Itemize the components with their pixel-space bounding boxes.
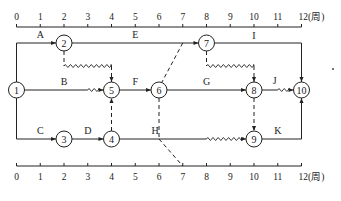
tick-label: 10 (249, 12, 259, 22)
tick-label: 10 (249, 172, 259, 182)
activity-H: H (120, 125, 247, 141)
node-label: 10 (297, 85, 307, 96)
tick-label: 2 (62, 172, 67, 182)
check-line (159, 43, 183, 166)
arrow-head (110, 77, 114, 82)
node-4: 4 (104, 131, 120, 147)
node-1: 1 (9, 82, 25, 98)
arrow-head (300, 98, 304, 103)
activity-label: H (151, 125, 158, 136)
nodes: 12345678910 (9, 35, 310, 147)
tick-label: 6 (157, 172, 162, 182)
tick-label: 9 (228, 12, 233, 22)
arrow-head (252, 77, 256, 82)
tick-label: 5 (133, 12, 138, 22)
activity-E: E (72, 29, 199, 45)
tick-label: 3 (85, 172, 90, 182)
arrow-head (110, 98, 114, 103)
top-time-axis: 0123456789101112(周) (14, 12, 324, 27)
arrow-head (289, 88, 294, 92)
check-line-segment (162, 43, 183, 82)
activity-label: D (84, 125, 91, 136)
activity-J: J (262, 75, 294, 92)
free-float-wave (207, 65, 255, 68)
activity-I: I (215, 30, 304, 82)
arrow-head (51, 41, 56, 45)
arrow-head (300, 77, 304, 82)
tick-label: 0 (14, 12, 19, 22)
node-label: 7 (204, 38, 209, 49)
tick-label: 5 (133, 172, 138, 182)
network-diagram: 0123456789101112(周) 0123456789101112(周) … (0, 0, 341, 201)
dummy-8-9 (252, 98, 256, 131)
arrow-head (194, 41, 199, 45)
arrow-head (99, 137, 104, 141)
activity-G: G (167, 76, 246, 92)
activity-label: J (273, 75, 277, 86)
node-label: 1 (14, 85, 19, 96)
activity-label: G (203, 76, 210, 87)
tick-label: 9 (228, 172, 233, 182)
activity-label: F (132, 76, 138, 87)
arrow-line (262, 98, 302, 139)
tick-label: 4 (109, 12, 114, 22)
tick-label: 4 (109, 172, 114, 182)
tick-label: 6 (157, 12, 162, 22)
tick-label: 0 (14, 172, 19, 182)
activity-C: C (17, 98, 57, 141)
free-float-wave (64, 65, 112, 68)
activity-A: A (17, 29, 57, 82)
node-10: 10 (294, 82, 310, 98)
tick-label: 11 (273, 12, 282, 22)
activity-label: A (37, 29, 45, 40)
activity-label: K (274, 125, 282, 136)
arrow-head (241, 88, 246, 92)
node-label: 4 (109, 134, 114, 145)
node-2: 2 (56, 35, 72, 51)
check-line-segment (159, 139, 183, 166)
node-label: 3 (62, 134, 67, 145)
node-6: 6 (151, 82, 167, 98)
tick-label: 12(周) (299, 172, 325, 183)
tick-label: 7 (180, 172, 185, 182)
activity-F: F (120, 76, 152, 92)
tick-label: 1 (38, 12, 43, 22)
activity-K: K (262, 98, 304, 139)
node-label: 5 (109, 85, 114, 96)
tick-label: 3 (85, 12, 90, 22)
node-8: 8 (246, 82, 262, 98)
arrow-line (17, 43, 57, 82)
node-5: 5 (104, 82, 120, 98)
activity-D: D (72, 125, 104, 141)
node-label: 6 (157, 85, 162, 96)
dummy-2-5 (64, 51, 114, 82)
tick-label: 2 (62, 12, 67, 22)
dummy-7-8 (207, 51, 257, 82)
tick-label: 12(周) (299, 12, 325, 23)
activity-B: B (25, 76, 104, 92)
node-label: 8 (252, 85, 257, 96)
node-label: 2 (62, 38, 67, 49)
activity-label: B (61, 76, 68, 87)
arrow-head (146, 88, 151, 92)
free-float-wave (207, 138, 244, 141)
tick-label: 8 (204, 12, 209, 22)
arrow-head (99, 88, 104, 92)
bottom-time-axis: 0123456789101112(周) (14, 163, 324, 183)
tick-label: 1 (38, 172, 43, 182)
activity-label: I (252, 30, 255, 41)
arrow-head (51, 137, 56, 141)
stray-dot (332, 68, 334, 70)
arrow-head (252, 126, 256, 131)
node-label: 9 (252, 134, 257, 145)
tick-label: 11 (273, 172, 282, 182)
node-3: 3 (56, 131, 72, 147)
node-9: 9 (246, 131, 262, 147)
arrow-head (241, 137, 246, 141)
tick-label: 7 (180, 12, 185, 22)
tick-label: 8 (204, 172, 209, 182)
arrow-line (215, 43, 302, 82)
node-7: 7 (199, 35, 215, 51)
activity-label: C (37, 125, 44, 136)
dummy-4-5 (110, 98, 114, 131)
